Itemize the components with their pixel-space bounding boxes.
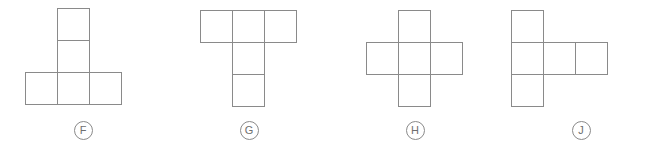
option-letter-g: G bbox=[240, 121, 259, 140]
net-square bbox=[233, 43, 265, 75]
answer-options-row: F G H J bbox=[0, 0, 664, 148]
net-square bbox=[544, 43, 576, 75]
net-square bbox=[201, 11, 233, 43]
option-letter-j: J bbox=[572, 121, 591, 140]
net-shape-g-svg bbox=[166, 0, 332, 112]
answer-option-j[interactable]: J bbox=[498, 0, 664, 148]
net-square bbox=[576, 43, 608, 75]
net-square bbox=[90, 73, 122, 105]
answer-option-g[interactable]: G bbox=[166, 0, 332, 148]
net-square bbox=[58, 9, 90, 41]
net-square bbox=[512, 43, 544, 75]
net-square bbox=[399, 75, 431, 107]
option-letter-f: F bbox=[74, 121, 93, 140]
net-square bbox=[431, 43, 463, 75]
net-shape-f-svg bbox=[0, 0, 166, 112]
answer-option-h[interactable]: H bbox=[332, 0, 498, 148]
net-square bbox=[58, 41, 90, 73]
option-label-container-j: J bbox=[498, 121, 664, 140]
option-label-container-f: F bbox=[0, 121, 166, 140]
net-figure-f bbox=[0, 0, 166, 112]
net-square bbox=[233, 75, 265, 107]
net-square bbox=[399, 43, 431, 75]
net-figure-h bbox=[332, 0, 498, 112]
option-label-container-g: G bbox=[166, 121, 332, 140]
net-shape-h-svg bbox=[332, 0, 498, 112]
net-figure-j bbox=[498, 0, 664, 112]
net-square bbox=[367, 43, 399, 75]
net-square bbox=[512, 11, 544, 43]
option-letter-h: H bbox=[406, 121, 425, 140]
net-figure-g bbox=[166, 0, 332, 112]
net-shape-j-svg bbox=[498, 0, 664, 112]
option-label-container-h: H bbox=[332, 121, 498, 140]
net-square bbox=[512, 75, 544, 107]
net-square bbox=[399, 11, 431, 43]
net-square bbox=[233, 11, 265, 43]
answer-option-f[interactable]: F bbox=[0, 0, 166, 148]
net-square bbox=[265, 11, 297, 43]
net-square bbox=[58, 73, 90, 105]
net-square bbox=[26, 73, 58, 105]
